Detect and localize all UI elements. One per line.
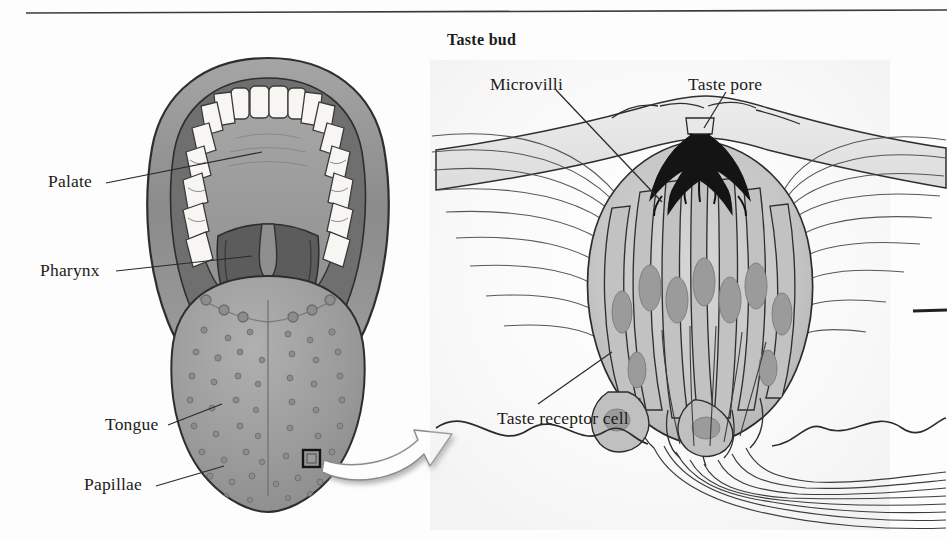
label-papillae: Papillae <box>84 474 142 495</box>
label-pharynx: Pharynx <box>40 260 100 281</box>
uvula <box>259 224 277 280</box>
taste-pore <box>686 118 714 137</box>
top-rule <box>26 10 947 13</box>
oral-cavity-illustration <box>147 58 389 512</box>
figure-artwork <box>0 0 947 538</box>
label-taste-pore: Taste pore <box>688 74 762 95</box>
label-tongue: Tongue <box>105 414 158 435</box>
label-palate: Palate <box>48 171 92 192</box>
taste-bud-illustration <box>430 60 946 530</box>
taste-bud-title: Taste bud <box>447 31 516 49</box>
label-microvilli: Microvilli <box>490 74 563 95</box>
label-taste-receptor-cell: Taste receptor cell <box>497 408 647 429</box>
anatomy-figure: Taste bud Palate Pharynx Tongue Papillae… <box>0 0 947 538</box>
edge-leader-dash <box>913 310 947 311</box>
